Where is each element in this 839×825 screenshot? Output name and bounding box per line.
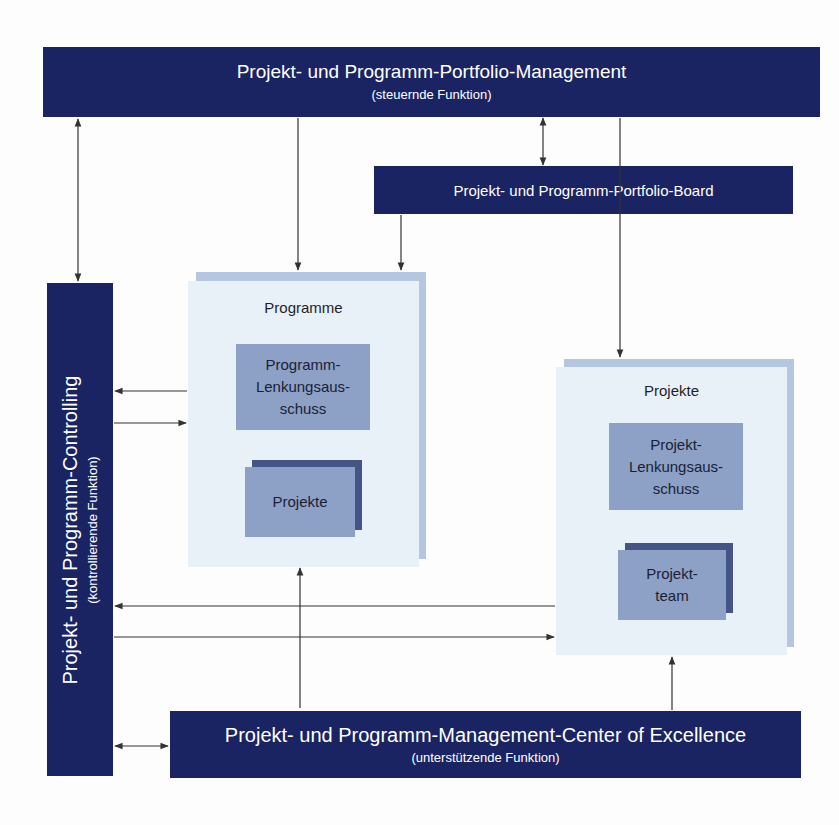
connector-arrows <box>0 0 839 825</box>
